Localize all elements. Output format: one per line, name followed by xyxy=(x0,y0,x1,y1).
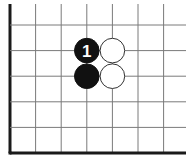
stones-layer: 1 xyxy=(75,38,125,88)
go-board: 1 xyxy=(0,0,191,164)
move-number-label: 1 xyxy=(82,42,91,61)
black-stone xyxy=(75,64,100,89)
white-stone xyxy=(100,64,125,89)
white-stone-disc xyxy=(100,64,125,89)
white-stone-disc xyxy=(100,38,125,63)
black-stone-disc xyxy=(75,64,100,89)
white-stone xyxy=(100,38,125,63)
board-corner xyxy=(9,152,12,155)
black-stone: 1 xyxy=(75,38,100,63)
